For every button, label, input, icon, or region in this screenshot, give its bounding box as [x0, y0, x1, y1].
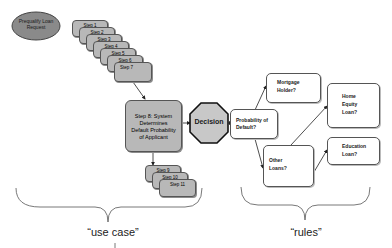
use-case-label: “use case” — [80, 226, 146, 238]
step-7: Step 7 — [114, 62, 152, 82]
step-11: Step 11 — [159, 179, 196, 197]
rules-brace — [241, 187, 370, 220]
arrow-step7-to-step8 — [133, 82, 145, 99]
rule-home-equity-loan: Home Equity Loan? — [327, 83, 380, 128]
rule-education-loan: Education Loan? — [327, 137, 380, 165]
rule-mortgage-holder: Mortgage Holder? — [266, 73, 321, 103]
loan-diagram: Prequalify Loan Request Step 1 Step 2 St… — [0, 0, 392, 248]
arrow-probability-to-other — [255, 139, 263, 168]
arrow-probability-to-mortgage — [255, 86, 266, 110]
arrow-other-to-home-equity — [291, 106, 327, 145]
rule-probability-of-default: Probability of Default? — [230, 109, 278, 139]
start-oval-label: Prequalify Loan Request — [14, 19, 58, 30]
arrow-other-to-education — [314, 150, 327, 172]
rules-label: “rules” — [281, 226, 331, 238]
rule-other-loans: Other Loans? — [263, 145, 314, 187]
step-8-system-box: Step 8: System Determines Default Probab… — [125, 100, 182, 152]
decision-label: Decision — [190, 118, 228, 126]
